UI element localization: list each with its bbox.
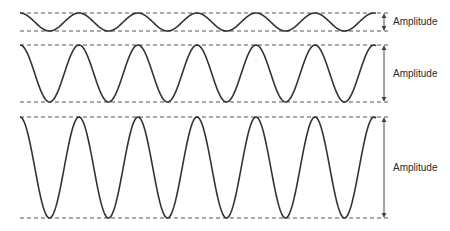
arrowhead-up-icon (382, 118, 387, 123)
arrowhead-down-icon (382, 97, 387, 102)
arrowhead-up-icon (382, 14, 387, 19)
amplitude-label-medium: Amplitude (393, 68, 437, 79)
amplitude-label-small: Amplitude (393, 16, 437, 27)
wave-medium (20, 45, 376, 102)
arrowhead-down-icon (382, 26, 387, 31)
amplitude-diagram (0, 0, 450, 231)
wave-small (20, 13, 376, 31)
arrowhead-down-icon (382, 213, 387, 218)
arrowhead-up-icon (382, 46, 387, 51)
amplitude-label-large: Amplitude (393, 162, 437, 173)
wave-large (20, 117, 376, 218)
